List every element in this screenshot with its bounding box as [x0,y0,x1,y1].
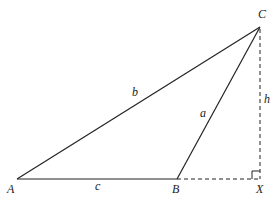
vertex-label-a: A [6,182,15,196]
vertex-label-c: C [258,7,267,21]
point-label-x: X [255,182,264,196]
side-b [17,27,260,179]
right-angle-marker [252,171,260,179]
side-label-c: c [95,179,101,193]
side-label-a: a [200,106,206,120]
side-label-b: b [132,85,138,99]
vertex-label-b: B [172,182,180,196]
side-a [177,27,260,179]
altitude-label-h: h [264,92,270,106]
triangle-diagram: A B C X a b c h [0,0,280,198]
